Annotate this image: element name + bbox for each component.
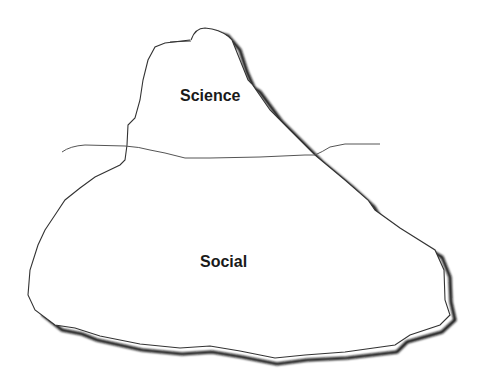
social-label: Social xyxy=(200,253,247,271)
iceberg-outline xyxy=(28,28,450,358)
science-label: Science xyxy=(180,87,240,105)
iceberg-diagram xyxy=(0,0,480,384)
